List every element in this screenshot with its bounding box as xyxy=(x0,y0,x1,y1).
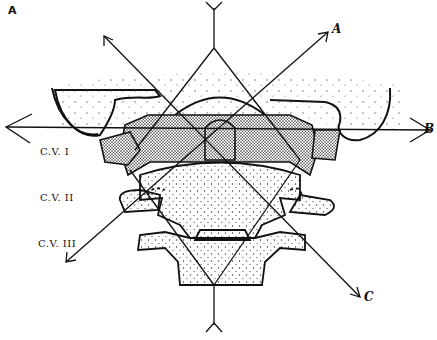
level-label-c2: C.V. II xyxy=(40,192,74,203)
diagram-drawing xyxy=(0,0,437,340)
vertebra-c3 xyxy=(138,230,305,285)
level-label-c3: C.V. III xyxy=(38,238,76,249)
anatomical-diagram: A A B C C.V. I C.V. II C.V. III xyxy=(0,0,437,340)
axis-label-c: C xyxy=(364,290,374,304)
axis-label-a: A xyxy=(332,22,341,36)
axis-label-b: B xyxy=(424,122,434,136)
panel-label: A xyxy=(8,4,17,17)
level-label-c1: C.V. I xyxy=(40,146,69,157)
